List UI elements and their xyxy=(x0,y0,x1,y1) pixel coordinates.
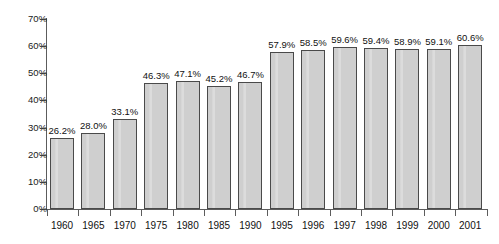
bar xyxy=(50,138,74,209)
x-axis-tick xyxy=(392,210,393,216)
x-axis-tick xyxy=(298,210,299,216)
y-axis-tick-label: 30% xyxy=(9,123,47,133)
bar xyxy=(144,83,168,209)
x-axis-tick xyxy=(47,210,48,216)
x-axis-tick xyxy=(78,210,79,216)
bar xyxy=(364,48,388,209)
y-axis-tick-label: 0% xyxy=(9,204,47,214)
x-axis-tick xyxy=(235,210,236,216)
x-axis-tick xyxy=(361,210,362,216)
y-axis-tick-label: 50% xyxy=(9,68,47,78)
bar xyxy=(81,133,105,209)
bar xyxy=(395,49,419,209)
bar xyxy=(427,49,451,209)
bar xyxy=(176,81,200,209)
y-axis-tick-label: 70% xyxy=(9,14,47,24)
bar xyxy=(238,82,262,209)
x-axis-tick xyxy=(204,210,205,216)
y-axis-tick-label: 20% xyxy=(9,150,47,160)
bar-chart: 0%10%20%30%40%50%60%70% 26.2%28.0%33.1%4… xyxy=(0,0,499,244)
bar-value-label: 28.0% xyxy=(75,120,111,131)
bar-value-label: 46.7% xyxy=(232,69,268,80)
x-axis-tick xyxy=(173,210,174,216)
bar-value-label: 60.6% xyxy=(452,32,488,43)
y-axis-tick-label: 10% xyxy=(9,177,47,187)
y-axis-tick-label: 60% xyxy=(9,41,47,51)
bar xyxy=(270,52,294,209)
x-axis-tick xyxy=(267,210,268,216)
bar-value-label: 33.1% xyxy=(107,106,143,117)
bar xyxy=(458,45,482,209)
x-axis-tick xyxy=(141,210,142,216)
bar xyxy=(333,47,357,209)
bar xyxy=(113,119,137,209)
bar xyxy=(301,50,325,209)
bar xyxy=(207,86,231,209)
x-axis-tick xyxy=(110,210,111,216)
y-axis-tick-label: 40% xyxy=(9,95,47,105)
x-axis-tick xyxy=(424,210,425,216)
x-axis-tick xyxy=(455,210,456,216)
x-axis-label: 2001 xyxy=(452,220,488,232)
x-axis-tick xyxy=(487,210,488,216)
x-axis-tick xyxy=(330,210,331,216)
